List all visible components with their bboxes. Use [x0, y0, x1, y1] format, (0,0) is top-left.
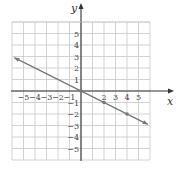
y-tick-label: −2	[67, 110, 79, 119]
y-tick-label: −5	[67, 145, 79, 154]
x-tick-label: −4	[29, 93, 41, 102]
y-tick-label: 1	[74, 76, 79, 85]
x-tick-label: −3	[41, 93, 53, 102]
x-tick-label: 4	[124, 93, 129, 102]
y-tick-label: 2	[74, 64, 79, 73]
y-tick-label: 3	[74, 53, 79, 62]
x-tick-label: 3	[113, 93, 118, 102]
data-point	[102, 101, 106, 105]
x-tick-label: −2	[52, 93, 64, 102]
y-tick-label: 4	[74, 41, 79, 50]
data-point	[79, 89, 83, 93]
x-tick-label: 2	[101, 93, 106, 102]
x-axis-label: x	[167, 95, 174, 108]
data-point	[125, 112, 129, 116]
y-tick-label: −4	[67, 133, 79, 142]
y-tick-label: −1	[67, 99, 79, 108]
x-tick-label: 5	[136, 93, 141, 102]
y-tick-label: 5	[74, 30, 79, 39]
y-axis-label: y	[70, 2, 78, 15]
coordinate-plane: −5−4−3−2−1234554321−1−2−3−4−5 x y	[0, 0, 176, 170]
x-axis-arrow-icon	[168, 89, 174, 94]
x-tick-label: −5	[18, 93, 30, 102]
y-tick-label: −3	[67, 122, 79, 131]
y-axis-arrow-icon	[79, 3, 84, 9]
